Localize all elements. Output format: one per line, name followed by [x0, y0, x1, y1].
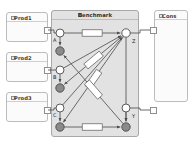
link-box-A-Z[interactable] — [82, 30, 102, 37]
node-Z[interactable] — [122, 29, 130, 37]
link-box-Z-B2[interactable] — [84, 51, 104, 69]
graph-layer[interactable] — [0, 0, 190, 152]
edge-C-Z[interactable] — [63, 37, 123, 105]
node-Y2[interactable] — [122, 123, 130, 131]
node-C2[interactable] — [56, 123, 64, 131]
node-B2[interactable] — [56, 84, 64, 92]
node-A[interactable] — [56, 29, 64, 37]
connector-line — [130, 108, 150, 110]
node-B[interactable] — [56, 66, 64, 74]
node-Y[interactable] — [122, 104, 130, 112]
node-label-B: B — [53, 75, 56, 80]
node-C[interactable] — [56, 104, 64, 112]
link-box-C2-Y2[interactable] — [82, 124, 102, 131]
connector-line — [130, 30, 150, 33]
node-label-A: A — [53, 38, 56, 43]
node-label-Y: Y — [132, 114, 135, 119]
node-label-C: C — [53, 113, 57, 118]
node-label-Z: Z — [132, 39, 135, 44]
diagram-canvas[interactable]: Prod1 Prod2 Prod3 Benchmark Cons — [0, 0, 190, 152]
node-A2[interactable] — [56, 47, 64, 55]
